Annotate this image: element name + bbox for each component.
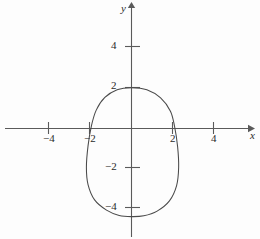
y-tick-label-neg-4: −4 xyxy=(105,201,117,212)
y-axis-label: y xyxy=(121,3,126,14)
y-axis-arrow-icon xyxy=(128,2,135,8)
y-tick-label-neg-2: −2 xyxy=(105,161,117,172)
x-tick-label-neg-4: −4 xyxy=(43,133,55,144)
x-tick-label-pos-2: 2 xyxy=(170,133,176,144)
y-tick-label-pos-2: 2 xyxy=(111,80,117,91)
y-tick-label-pos-4: 4 xyxy=(111,40,117,51)
graph-figure: −4 −2 2 4 4 2 −2 −4 y x xyxy=(0,0,260,239)
oval-curve xyxy=(86,88,178,217)
y-axis-ticks xyxy=(125,47,140,208)
x-axis-label: x xyxy=(250,130,255,141)
coordinate-plane-svg xyxy=(0,0,260,239)
x-tick-label-neg-2: −2 xyxy=(84,133,96,144)
y-axis xyxy=(128,2,135,237)
x-tick-label-pos-4: 4 xyxy=(211,133,217,144)
